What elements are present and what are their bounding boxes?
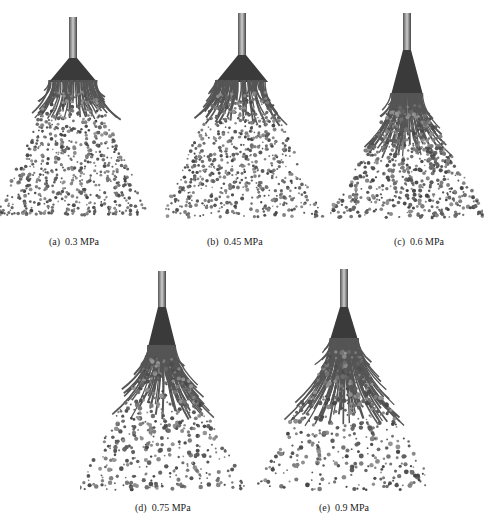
caption-d-value: 0.75 MPa [152,502,191,513]
spray-image-b [165,0,335,225]
caption-c-label: (c) [394,236,405,247]
spray-image-c [330,0,501,225]
caption-b-value: 0.45 MPa [224,236,263,247]
caption-b-label: (b) [207,236,219,247]
caption-c-value: 0.6 MPa [410,236,444,247]
spray-image-a [0,0,170,225]
spray-panel-d [80,265,260,500]
caption-e-label: (e) [319,502,330,513]
spray-panel-e [255,265,435,500]
spray-image-d [80,265,260,500]
caption-c: (c)0.6 MPa [394,236,444,247]
spray-panel-b [165,0,335,225]
caption-a: (a)0.3 MPa [49,236,99,247]
caption-e: (e)0.9 MPa [319,502,369,513]
spray-image-e [255,265,435,500]
caption-d: (d)0.75 MPa [135,502,191,513]
spray-panel-a [0,0,170,225]
caption-b: (b)0.45 MPa [207,236,263,247]
caption-d-label: (d) [135,502,147,513]
caption-e-value: 0.9 MPa [335,502,369,513]
spray-panel-c [330,0,501,225]
caption-a-value: 0.3 MPa [65,236,99,247]
caption-a-label: (a) [49,236,60,247]
